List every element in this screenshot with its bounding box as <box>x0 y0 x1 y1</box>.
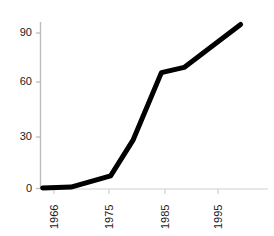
x-tick-label-1975: 1975 <box>104 205 115 229</box>
x-tick-label-1966: 1966 <box>49 205 60 229</box>
x-tick-label-1985: 1985 <box>160 205 171 229</box>
chart-plot-area <box>0 0 274 236</box>
y-tick-label-90: 90 <box>6 27 32 38</box>
y-tick-label-30: 30 <box>6 131 32 142</box>
x-tick-label-1995: 1995 <box>213 205 224 229</box>
data-series-line <box>43 24 241 188</box>
y-tick-label-0: 0 <box>6 183 32 194</box>
line-chart: 90 60 30 0 1966 1975 1985 1995 <box>0 0 274 236</box>
y-tick-label-60: 60 <box>6 76 32 87</box>
x-tick-marks <box>54 189 218 194</box>
